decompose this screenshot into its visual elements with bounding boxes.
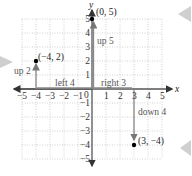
svg-text:−4: −4 bbox=[80, 140, 90, 150]
svg-text:4: 4 bbox=[146, 91, 151, 101]
svg-text:−2: −2 bbox=[80, 112, 90, 122]
svg-text:−3: −3 bbox=[80, 126, 90, 136]
y-axis-label: y bbox=[88, 0, 94, 10]
right-top-decor-arrow-icon bbox=[178, 6, 191, 22]
svg-text:2: 2 bbox=[118, 91, 123, 101]
coordinate-plane: (0, 5) (−4, 2) (3, −4) up 5 left 4 up 2 … bbox=[0, 0, 192, 176]
svg-text:−4: −4 bbox=[31, 91, 41, 101]
annotation-right-3: right 3 bbox=[101, 78, 126, 88]
svg-text:4: 4 bbox=[85, 28, 90, 38]
svg-text:1: 1 bbox=[104, 91, 109, 101]
svg-text:−1: −1 bbox=[80, 98, 90, 108]
annotation-up-2: up 2 bbox=[14, 66, 31, 76]
annotation-up-5: up 5 bbox=[97, 36, 114, 46]
svg-text:−5: −5 bbox=[80, 154, 90, 164]
svg-text:3: 3 bbox=[85, 42, 90, 52]
left-decor-arrow-icon bbox=[0, 56, 13, 68]
label-point-0-5: (0, 5) bbox=[96, 7, 117, 18]
svg-text:−5: −5 bbox=[17, 91, 27, 101]
svg-text:1: 1 bbox=[85, 70, 90, 80]
svg-text:3: 3 bbox=[132, 91, 137, 101]
svg-text:5: 5 bbox=[85, 14, 90, 24]
svg-text:−2: −2 bbox=[59, 91, 69, 101]
point-0-5 bbox=[90, 17, 94, 21]
x-axis-label: x bbox=[174, 84, 180, 94]
x-tick-labels: −5 −4 −3 −2 −1 1 2 3 4 5 bbox=[17, 91, 165, 101]
annotation-left-4: left 4 bbox=[55, 78, 75, 88]
right-bottom-decor-arrow-icon bbox=[180, 140, 191, 156]
svg-text:−3: −3 bbox=[45, 91, 55, 101]
annotation-down-4: down 4 bbox=[138, 107, 166, 117]
label-point-3-neg4: (3, −4) bbox=[138, 136, 164, 147]
svg-text:2: 2 bbox=[85, 56, 90, 66]
label-point-neg4-2: (−4, 2) bbox=[38, 52, 64, 63]
svg-text:5: 5 bbox=[160, 91, 165, 101]
point-3-neg4 bbox=[132, 143, 136, 147]
